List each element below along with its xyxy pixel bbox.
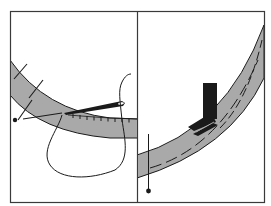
- curved-band: [10, 60, 140, 138]
- pin-head-icon: [13, 118, 17, 122]
- right-panel: [137, 25, 264, 193]
- curved-band: [137, 25, 264, 178]
- pin-head-icon: [146, 189, 151, 194]
- sewing-diagram: [0, 0, 271, 206]
- hand-needle-icon: [64, 101, 125, 115]
- left-panel: [10, 60, 140, 177]
